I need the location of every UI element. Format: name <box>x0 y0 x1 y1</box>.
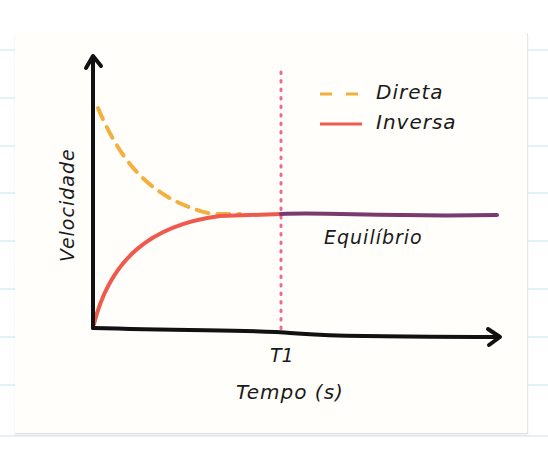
x-axis-label: Tempo (s) <box>236 380 344 404</box>
legend-direta-label: Direta <box>376 80 444 104</box>
x-axis <box>93 328 498 337</box>
t1-tick-label: T1 <box>270 344 294 366</box>
equilibrium-line <box>281 214 497 216</box>
direta-curve <box>98 108 240 214</box>
equilibrium-annotation: Equilíbrio <box>324 226 423 248</box>
y-axis-label: Velocidade <box>56 148 78 262</box>
legend-inversa-label: Inversa <box>376 110 457 134</box>
inversa-curve <box>94 214 281 324</box>
